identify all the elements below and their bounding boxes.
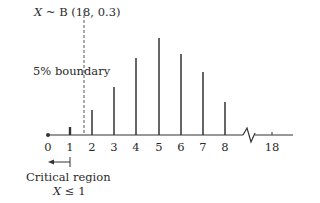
tick-label-7: 7 — [199, 140, 206, 154]
condition-value: ≤ 1 — [65, 184, 86, 198]
arrow-left-icon — [48, 160, 54, 165]
zero-point — [46, 133, 50, 137]
tick-label-8: 8 — [221, 140, 228, 154]
tick-label-18: 18 — [265, 140, 280, 154]
boundary-label: 5% boundary — [33, 66, 110, 78]
tick-label-2: 2 — [88, 140, 95, 154]
tick-label-5: 5 — [155, 140, 162, 154]
critical-region-condition: X ≤ 1 — [53, 186, 85, 198]
tick-label-6: 6 — [177, 140, 184, 154]
axis-break-icon — [243, 128, 255, 142]
tick-label-3: 3 — [110, 140, 117, 154]
tick-label-4: 4 — [132, 140, 139, 154]
title-dist: ~ B (18, 0.3) — [46, 5, 121, 19]
tick-label-0: 0 — [44, 140, 51, 154]
condition-var: X — [53, 184, 61, 198]
title-var: X — [34, 5, 42, 19]
distribution-title: X ~ B (18, 0.3) — [34, 7, 120, 19]
tick-label-1: 1 — [66, 140, 73, 154]
critical-region-label: Critical region — [26, 172, 111, 184]
